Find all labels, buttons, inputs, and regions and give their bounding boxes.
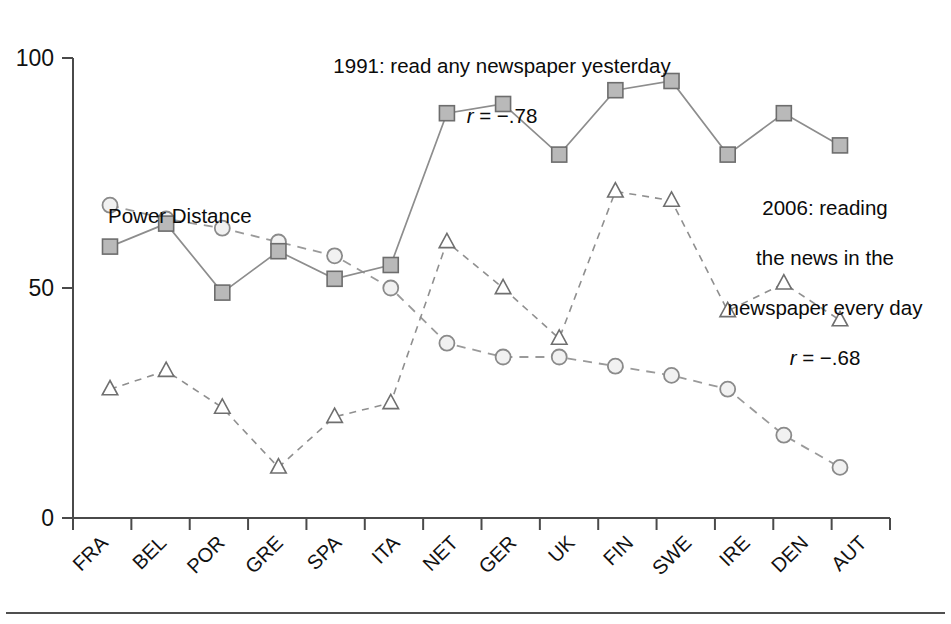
correlation-value: = −.78 [473, 104, 537, 127]
x-axis-category-label: DEN [767, 531, 812, 576]
data-point-marker [383, 258, 398, 273]
x-axis-category-label: AUT [827, 531, 871, 575]
bottom-divider-rule [6, 612, 945, 614]
x-axis-category-label: POR [183, 531, 229, 577]
data-point-marker [551, 330, 567, 344]
data-point-marker [327, 271, 342, 286]
x-axis-category-label: SPA [303, 531, 346, 574]
annotation-series-2006-line2: the news in the [700, 245, 950, 270]
x-axis-category-label: BEL [128, 531, 170, 573]
x-axis-category-labels: FRABELPORGRESPAITANETGERUKFINSWEIREDENAU… [68, 531, 870, 579]
x-axis-category-label: IRE [715, 531, 754, 570]
data-point-marker [215, 399, 231, 413]
data-point-marker [158, 362, 174, 376]
data-point-marker [664, 368, 679, 383]
data-point-marker [664, 192, 680, 206]
data-point-marker [271, 244, 286, 259]
annotation-series-2006-correlation: r = −.68 [700, 345, 950, 370]
annotation-series-2006: 2006: reading the news in the newspaper … [700, 170, 950, 395]
data-point-marker [495, 279, 511, 293]
annotation-series-2006-line1: 2006: reading [700, 195, 950, 220]
x-axis-category-label: ITA [367, 531, 404, 568]
x-axis-category-label: FIN [599, 531, 637, 569]
y-axis-tick-label: 100 [16, 45, 54, 71]
annotation-series-1991: 1991: read any newspaper yesterday r = −… [312, 28, 692, 153]
data-point-marker [776, 106, 791, 121]
data-point-marker [776, 428, 791, 443]
annotation-series-2006-line3: newspaper every day [700, 295, 950, 320]
data-point-marker [720, 147, 735, 162]
data-point-marker [608, 359, 623, 374]
x-axis-category-label: UK [544, 531, 580, 567]
x-axis-category-label: GRE [241, 531, 287, 577]
data-point-marker [608, 183, 624, 197]
data-point-marker [439, 233, 455, 247]
annotation-power-distance: Power Distance [108, 178, 348, 228]
y-axis-tick-label: 50 [28, 275, 54, 301]
x-axis-category-label: SWE [648, 531, 696, 579]
data-point-marker [552, 350, 567, 365]
data-point-marker [383, 281, 398, 296]
correlation-value: = −.68 [796, 346, 860, 369]
x-axis-category-label: NET [418, 531, 462, 575]
x-axis-category-label: FRA [68, 531, 112, 575]
x-axis-category-label: GER [474, 531, 520, 577]
data-point-marker [103, 239, 118, 254]
data-point-marker [215, 285, 230, 300]
data-point-marker [383, 394, 399, 408]
annotation-power-distance-label: Power Distance [108, 204, 252, 227]
annotation-series-1991-correlation: r = −.78 [312, 103, 692, 128]
data-point-marker [833, 138, 848, 153]
data-point-marker [327, 248, 342, 263]
data-point-marker [439, 336, 454, 351]
data-point-marker [496, 350, 511, 365]
data-point-marker [833, 460, 848, 475]
chart-figure: 050100 FRABELPORGRESPAITANETGERUKFINSWEI… [0, 0, 951, 624]
y-axis-tick-label: 0 [41, 505, 54, 531]
annotation-series-1991-label: 1991: read any newspaper yesterday [312, 53, 692, 78]
